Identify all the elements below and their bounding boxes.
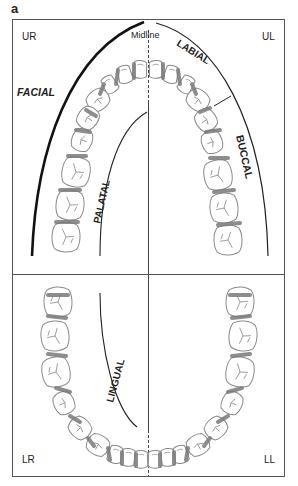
- quadrant-label-ul: UL: [262, 31, 275, 42]
- labial-buccal-boundary-tick: [214, 96, 231, 106]
- buccal-label: BUCCAL: [234, 134, 256, 180]
- facial-label: FACIAL: [17, 86, 55, 98]
- labial-label: LABIAL: [175, 37, 212, 66]
- quadrant-label-lr: LR: [22, 454, 35, 465]
- dental-arch-diagram: UR UL LR LL Midline FACIAL LABIAL BUCCAL…: [0, 0, 298, 486]
- midline-label: Midline: [131, 30, 160, 40]
- palatal-label: PALATAL: [91, 179, 112, 225]
- quadrant-label-ll: LL: [264, 454, 276, 465]
- quadrant-label-ur: UR: [22, 31, 36, 42]
